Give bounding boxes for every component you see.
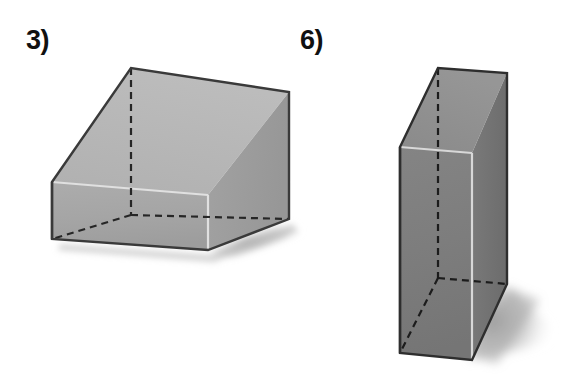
figure-6-svg xyxy=(0,0,571,388)
figure-6-label: 6) xyxy=(300,27,323,54)
figure-3-label: 3) xyxy=(26,27,49,54)
figure-6-container xyxy=(0,0,571,388)
worksheet-page: 3) 6) xyxy=(0,0,571,388)
figure-6-front-face xyxy=(400,147,472,360)
